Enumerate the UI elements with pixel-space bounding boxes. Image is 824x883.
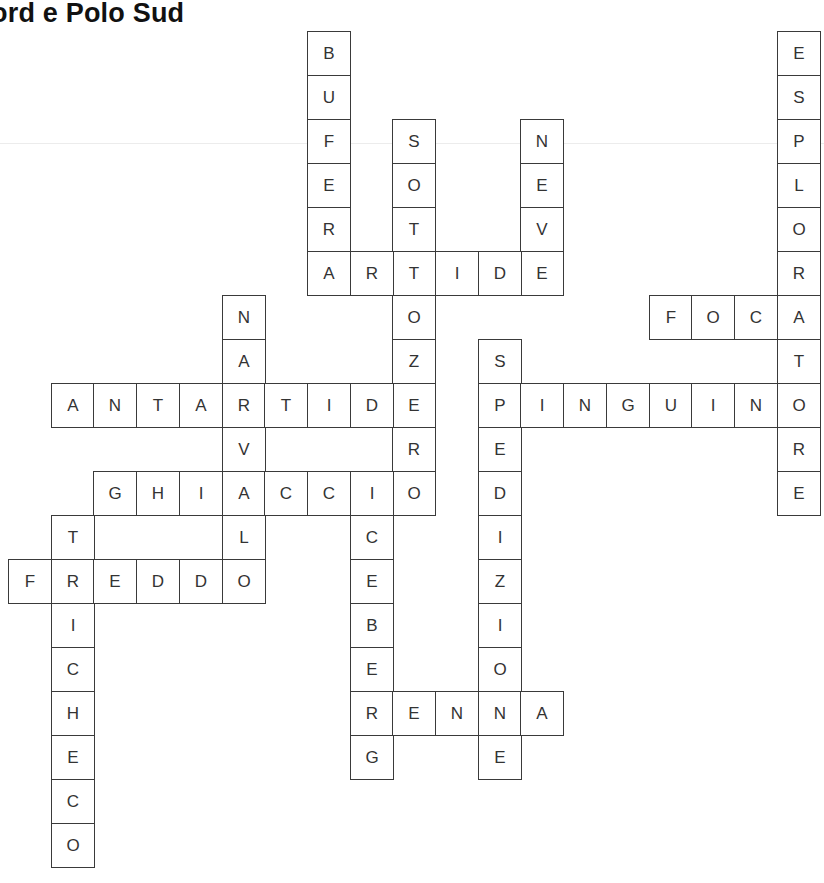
crossword-cell[interactable]: R <box>777 427 821 472</box>
crossword-cell[interactable]: R <box>392 427 436 472</box>
crossword-cell[interactable]: O <box>392 471 436 516</box>
crossword-cell[interactable]: L <box>777 163 821 208</box>
crossword-cell[interactable]: N <box>222 295 266 340</box>
crossword-cell[interactable]: A <box>222 339 266 384</box>
crossword-cell[interactable]: B <box>350 603 394 648</box>
crossword-cell[interactable]: E <box>777 31 821 76</box>
crossword-cell[interactable]: I <box>520 383 564 428</box>
crossword-cell[interactable]: I <box>51 603 95 648</box>
crossword-cell[interactable]: U <box>649 383 693 428</box>
crossword-cell[interactable]: I <box>478 515 522 560</box>
crossword-cell[interactable]: E <box>350 559 394 604</box>
crossword-cell[interactable]: I <box>435 251 479 296</box>
crossword-cell[interactable]: H <box>136 471 180 516</box>
crossword-cell[interactable]: R <box>777 251 821 296</box>
crossword-cell[interactable]: N <box>478 691 522 736</box>
crossword-cell[interactable]: E <box>478 427 522 472</box>
crossword-cell[interactable]: T <box>392 251 436 296</box>
crossword-cell[interactable]: E <box>307 163 351 208</box>
crossword-cell[interactable]: E <box>777 471 821 516</box>
crossword-cell[interactable]: C <box>307 471 351 516</box>
crossword-cell[interactable]: E <box>392 383 436 428</box>
crossword-cell[interactable]: I <box>350 471 394 516</box>
crossword-cell[interactable]: T <box>136 383 180 428</box>
crossword-cell[interactable]: P <box>478 383 522 428</box>
crossword-cell[interactable]: D <box>350 383 394 428</box>
crossword-cell[interactable]: E <box>520 251 564 296</box>
crossword-cell[interactable]: O <box>392 295 436 340</box>
crossword-cell[interactable]: A <box>222 471 266 516</box>
crossword-cell[interactable]: U <box>307 75 351 120</box>
crossword-cell[interactable]: F <box>649 295 693 340</box>
crossword-cell[interactable]: E <box>51 735 95 780</box>
crossword-cell[interactable]: H <box>51 691 95 736</box>
crossword-cell[interactable]: T <box>392 207 436 252</box>
crossword-cell[interactable]: N <box>93 383 137 428</box>
crossword-cell[interactable]: O <box>222 559 266 604</box>
crossword-cell[interactable]: C <box>51 647 95 692</box>
crossword-cell[interactable]: A <box>179 383 223 428</box>
crossword-cell[interactable]: D <box>179 559 223 604</box>
crossword-cell[interactable]: C <box>734 295 778 340</box>
crossword-cell[interactable]: F <box>307 119 351 164</box>
crossword-cell[interactable]: P <box>777 119 821 164</box>
crossword-cell[interactable]: E <box>520 163 564 208</box>
crossword-cell[interactable]: I <box>691 383 735 428</box>
crossword-cell[interactable]: A <box>51 383 95 428</box>
crossword-cell[interactable]: E <box>478 735 522 780</box>
crossword-cell[interactable]: V <box>222 427 266 472</box>
crossword-cell[interactable]: C <box>350 515 394 560</box>
crossword-cell[interactable]: R <box>350 251 394 296</box>
crossword-cell[interactable]: V <box>520 207 564 252</box>
crossword-cell[interactable]: S <box>392 119 436 164</box>
crossword-cell[interactable]: E <box>350 647 394 692</box>
crossword-cell[interactable]: R <box>350 691 394 736</box>
crossword-cell[interactable]: N <box>734 383 778 428</box>
crossword-cell[interactable]: N <box>435 691 479 736</box>
crossword-cell[interactable]: A <box>307 251 351 296</box>
crossword-cell[interactable]: O <box>392 163 436 208</box>
crossword-cell[interactable]: E <box>392 691 436 736</box>
crossword-cell[interactable]: G <box>606 383 650 428</box>
crossword-cell[interactable]: Z <box>392 339 436 384</box>
crossword-cell[interactable]: T <box>777 339 821 384</box>
crossword-cell[interactable]: R <box>222 383 266 428</box>
crossword-cell[interactable]: R <box>51 559 95 604</box>
crossword-cell[interactable]: S <box>478 339 522 384</box>
crossword-cell[interactable]: C <box>51 779 95 824</box>
crossword-cell[interactable]: O <box>777 207 821 252</box>
crossword-cell[interactable]: A <box>777 295 821 340</box>
crossword-cell[interactable]: L <box>222 515 266 560</box>
crossword-cell[interactable]: N <box>563 383 607 428</box>
crossword-cell[interactable]: G <box>93 471 137 516</box>
crossword-cell[interactable]: I <box>478 603 522 648</box>
crossword-cell[interactable]: C <box>264 471 308 516</box>
crossword-cell[interactable]: R <box>307 207 351 252</box>
crossword-cell[interactable]: T <box>264 383 308 428</box>
crossword-cell[interactable]: O <box>478 647 522 692</box>
crossword-cell[interactable]: G <box>350 735 394 780</box>
crossword-cell[interactable]: O <box>51 823 95 868</box>
crossword-cell[interactable]: D <box>136 559 180 604</box>
crossword-cell[interactable]: O <box>777 383 821 428</box>
crossword-cell[interactable]: S <box>777 75 821 120</box>
crossword-cell[interactable]: D <box>478 251 522 296</box>
crossword-cell[interactable]: O <box>691 295 735 340</box>
crossword-cell[interactable]: N <box>520 119 564 164</box>
crossword-cell[interactable]: E <box>93 559 137 604</box>
crossword-cell[interactable]: T <box>51 515 95 560</box>
crossword-cell[interactable]: F <box>8 559 52 604</box>
crossword-cell[interactable]: I <box>307 383 351 428</box>
crossword-grid: BUFERAESPLORATORESOTTOZERONEVERIDNARVALO… <box>0 0 824 883</box>
crossword-cell[interactable]: A <box>520 691 564 736</box>
crossword-cell[interactable]: B <box>307 31 351 76</box>
crossword-cell[interactable]: D <box>478 471 522 516</box>
crossword-cell[interactable]: I <box>179 471 223 516</box>
crossword-cell[interactable]: Z <box>478 559 522 604</box>
